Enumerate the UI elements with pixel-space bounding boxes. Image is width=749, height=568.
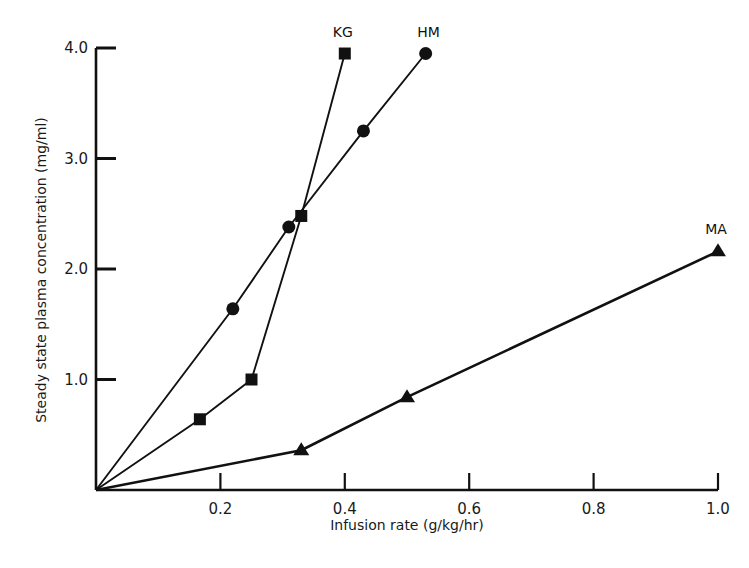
series-label-hm: HM bbox=[417, 24, 440, 40]
series-layer: KGHMMA bbox=[96, 24, 727, 490]
data-point-marker bbox=[226, 302, 239, 315]
data-point-marker bbox=[246, 374, 258, 386]
data-point-marker bbox=[282, 221, 295, 234]
series-ma: MA bbox=[96, 221, 727, 490]
series-line-ma bbox=[96, 251, 718, 490]
series-label-kg: KG bbox=[333, 24, 353, 40]
data-point-marker bbox=[710, 243, 726, 256]
x-tick-label: 0.6 bbox=[457, 500, 481, 518]
data-point-marker bbox=[419, 47, 432, 60]
series-line-hm bbox=[96, 54, 426, 490]
x-tick-label: 0.8 bbox=[582, 500, 606, 518]
x-axis-title: Infusion rate (g/kg/hr) bbox=[330, 517, 484, 533]
series-hm: HM bbox=[96, 24, 440, 490]
y-axis-title: Steady state plasma concentration (mg/ml… bbox=[33, 117, 49, 423]
series-line-kg bbox=[96, 54, 345, 490]
data-point-marker bbox=[194, 413, 206, 425]
series-label-ma: MA bbox=[705, 221, 727, 237]
axes: 1.02.03.04.00.20.40.60.81.0 bbox=[64, 39, 730, 518]
data-point-marker bbox=[357, 124, 370, 137]
y-tick-label: 4.0 bbox=[64, 39, 88, 57]
x-tick-label: 0.4 bbox=[333, 500, 357, 518]
x-tick-label: 1.0 bbox=[706, 500, 730, 518]
series-kg: KG bbox=[96, 24, 353, 490]
x-tick-label: 0.2 bbox=[208, 500, 232, 518]
y-tick-label: 3.0 bbox=[64, 150, 88, 168]
line-chart: 1.02.03.04.00.20.40.60.81.0 KGHMMA Infus… bbox=[0, 0, 749, 568]
y-tick-label: 2.0 bbox=[64, 260, 88, 278]
data-point-marker bbox=[339, 48, 351, 60]
y-tick-label: 1.0 bbox=[64, 371, 88, 389]
